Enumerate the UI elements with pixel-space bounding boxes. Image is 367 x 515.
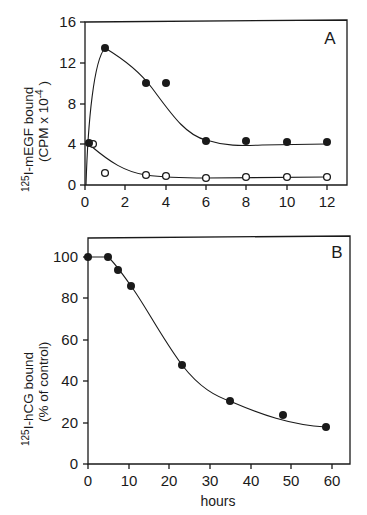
chart-b-ylabel-line1: I-hCG bound	[21, 352, 36, 429]
chart-a-ytick-4: 4	[68, 135, 76, 152]
chart-a: 0 4 8 12 16 0 2 4 6 8 10 12 A 125I-mEGF …	[20, 13, 347, 210]
chart-a-xtick-6: 6	[202, 193, 210, 210]
chart-a-y-ticks	[80, 22, 85, 185]
chart-a-panel-label: A	[324, 29, 336, 48]
chart-b-xtick-30: 30	[202, 472, 219, 489]
chart-a-ytick-8: 8	[68, 95, 76, 112]
svg-text:125I-hCG bound: 125I-hCG bound	[20, 352, 36, 446]
chart-b-xtick-50: 50	[283, 472, 300, 489]
svg-text:(CPM x 10-4 ): (CPM x 10-4 )	[34, 81, 51, 162]
chart-a-open-points	[90, 141, 331, 182]
chart-a-frame	[85, 20, 347, 185]
chart-b-ylabel-sup: 125	[20, 429, 31, 446]
chart-a-filled-curve	[86, 48, 327, 185]
chart-b-ytick-40: 40	[61, 372, 78, 389]
chart-b-panel-label: B	[331, 243, 342, 262]
chart-a-ytick-0: 0	[68, 176, 76, 193]
chart-b: 0 20 40 60 80 100 0 10 20 30 40 50 60 ho…	[20, 236, 350, 509]
chart-b-xtick-40: 40	[243, 472, 260, 489]
chart-b-y-axis-title: 125I-hCG bound (% of control)	[20, 342, 51, 446]
chart-b-xtick-0: 0	[84, 472, 92, 489]
chart-a-xtick-8: 8	[242, 193, 250, 210]
chart-a-ylabel-line2a: (CPM x 10	[36, 98, 51, 162]
chart-a-xtick-4: 4	[162, 193, 170, 210]
chart-b-ytick-100: 100	[53, 248, 78, 265]
chart-a-x-ticks	[85, 185, 327, 190]
chart-b-xtick-20: 20	[161, 472, 178, 489]
svg-text:125I-mEGF bound: 125I-mEGF bound	[20, 87, 36, 192]
chart-a-open-curve	[91, 146, 327, 178]
chart-a-xtick-2: 2	[121, 193, 129, 210]
chart-b-frame	[88, 236, 350, 464]
chart-b-ytick-0: 0	[70, 455, 78, 472]
chart-b-ytick-20: 20	[61, 414, 78, 431]
chart-a-xtick-0: 0	[81, 193, 89, 210]
figure: 0 4 8 12 16 0 2 4 6 8 10 12 A 125I-mEGF …	[0, 0, 367, 515]
chart-b-xtick-60: 60	[324, 472, 341, 489]
chart-a-y-axis-title: 125I-mEGF bound (CPM x 10-4 )	[20, 81, 51, 192]
chart-b-ytick-60: 60	[61, 331, 78, 348]
chart-b-points	[84, 253, 330, 431]
chart-b-curve	[88, 257, 326, 427]
chart-b-x-axis-title: hours	[200, 493, 235, 509]
chart-a-xtick-12: 12	[319, 193, 336, 210]
chart-a-xtick-10: 10	[279, 193, 296, 210]
chart-a-ytick-16: 16	[59, 13, 76, 30]
chart-a-ylabel-sup: 125	[20, 175, 31, 192]
chart-b-y-ticks	[83, 257, 88, 464]
chart-b-xtick-10: 10	[121, 472, 138, 489]
chart-a-ytick-12: 12	[59, 54, 76, 71]
chart-a-ylabel-line1: I-mEGF bound	[21, 87, 36, 176]
chart-b-x-ticks	[88, 464, 332, 469]
chart-b-ylabel-line2: (% of control)	[36, 342, 51, 422]
chart-b-ytick-80: 80	[61, 289, 78, 306]
chart-a-ylabel-line2b: )	[36, 81, 51, 89]
